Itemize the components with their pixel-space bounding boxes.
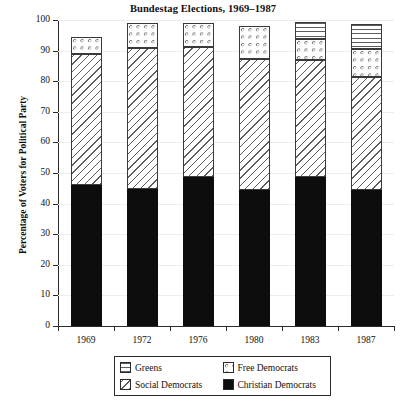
bar-segment-social-democrats bbox=[351, 77, 382, 190]
gridline bbox=[58, 204, 394, 205]
gridline bbox=[58, 173, 394, 174]
x-tick bbox=[226, 326, 227, 331]
bar-segment-social-democrats bbox=[127, 48, 158, 188]
x-tick bbox=[114, 326, 115, 331]
y-tick-label: 30 bbox=[41, 229, 51, 239]
bar-1972 bbox=[127, 20, 158, 326]
figure: Bundestag Elections, 1969–1987 Percentag… bbox=[0, 0, 406, 410]
bar-1969 bbox=[71, 20, 102, 326]
gridline bbox=[58, 112, 394, 113]
gridline bbox=[58, 142, 394, 143]
bar-segment-free-democrats bbox=[239, 26, 270, 58]
bar-segment-free-democrats bbox=[351, 49, 382, 77]
legend-swatch-horizontal-lines-icon bbox=[120, 362, 131, 373]
x-tick-label-1983: 1983 bbox=[301, 335, 320, 345]
bar-segment-free-democrats bbox=[71, 37, 102, 55]
plot-area: 0102030405060708090100 19691972197619801… bbox=[58, 20, 394, 326]
bar-1987 bbox=[351, 20, 382, 326]
gridline bbox=[58, 51, 394, 52]
y-tick-label: 20 bbox=[41, 260, 51, 270]
x-tick-label-1976: 1976 bbox=[189, 335, 208, 345]
y-tick-label: 50 bbox=[41, 168, 51, 178]
x-tick bbox=[170, 326, 171, 331]
bar-segment-christian-democrats bbox=[127, 189, 158, 326]
legend-item-christian-democrats[interactable]: Christian Democrats bbox=[223, 379, 326, 390]
y-tick-label: 40 bbox=[41, 199, 51, 209]
x-tick-label-1987: 1987 bbox=[357, 335, 376, 345]
bar-segment-social-democrats bbox=[71, 54, 102, 185]
legend-label: Social Democrats bbox=[135, 380, 202, 390]
y-tick bbox=[53, 295, 58, 296]
y-axis-label: Percentage of Voters for Political Party bbox=[18, 60, 28, 290]
x-tick-label-1980: 1980 bbox=[245, 335, 264, 345]
bar-segment-greens bbox=[351, 24, 382, 49]
legend-swatch-diagonal-hatch-icon bbox=[120, 379, 131, 390]
chart-title: Bundestag Elections, 1969–1987 bbox=[0, 3, 406, 14]
gridline bbox=[58, 20, 394, 21]
legend-swatch-solid-black-icon bbox=[223, 379, 234, 390]
bar-segment-social-democrats bbox=[239, 59, 270, 190]
legend-item-greens[interactable]: Greens bbox=[120, 362, 223, 373]
bar-segment-free-democrats bbox=[183, 23, 214, 47]
y-tick-label: 0 bbox=[45, 321, 50, 331]
y-tick bbox=[53, 204, 58, 205]
x-tick-label-1969: 1969 bbox=[77, 335, 96, 345]
y-tick bbox=[53, 112, 58, 113]
y-tick-label: 90 bbox=[41, 46, 51, 56]
bar-segment-christian-democrats bbox=[351, 190, 382, 326]
legend: GreensFree DemocratsSocial DemocratsChri… bbox=[114, 356, 331, 396]
y-tick bbox=[53, 20, 58, 21]
bar-segment-christian-democrats bbox=[295, 177, 326, 326]
x-tick bbox=[282, 326, 283, 331]
x-tick bbox=[338, 326, 339, 331]
bar-segment-greens bbox=[295, 22, 326, 39]
y-tick-label: 80 bbox=[41, 76, 51, 86]
y-tick bbox=[53, 234, 58, 235]
y-tick bbox=[53, 51, 58, 52]
y-tick-label: 10 bbox=[41, 291, 51, 301]
y-tick bbox=[53, 173, 58, 174]
legend-swatch-dots-icon bbox=[223, 362, 234, 373]
y-tick bbox=[53, 265, 58, 266]
bar-1980 bbox=[239, 20, 270, 326]
y-tick bbox=[53, 81, 58, 82]
x-tick bbox=[58, 326, 59, 331]
y-tick-label: 70 bbox=[41, 107, 51, 117]
x-tick bbox=[394, 326, 395, 331]
bar-segment-christian-democrats bbox=[183, 177, 214, 326]
bar-segment-social-democrats bbox=[183, 47, 214, 177]
y-tick bbox=[53, 142, 58, 143]
bar-1983 bbox=[295, 20, 326, 326]
y-tick-label: 60 bbox=[41, 138, 51, 148]
bar-1976 bbox=[183, 20, 214, 326]
legend-item-free-democrats[interactable]: Free Democrats bbox=[223, 362, 326, 373]
bar-segment-christian-democrats bbox=[71, 185, 102, 326]
legend-label: Free Democrats bbox=[238, 363, 298, 373]
y-tick-label: 100 bbox=[36, 15, 50, 25]
legend-label: Christian Democrats bbox=[238, 380, 316, 390]
gridline bbox=[58, 295, 394, 296]
legend-label: Greens bbox=[135, 363, 162, 373]
bar-segment-christian-democrats bbox=[239, 190, 270, 326]
gridline bbox=[58, 265, 394, 266]
gridline bbox=[58, 81, 394, 82]
legend-item-social-democrats[interactable]: Social Democrats bbox=[120, 379, 223, 390]
bar-segment-free-democrats bbox=[295, 39, 326, 60]
bar-segment-free-democrats bbox=[127, 23, 158, 49]
gridline bbox=[58, 234, 394, 235]
x-tick-label-1972: 1972 bbox=[133, 335, 152, 345]
bar-segment-social-democrats bbox=[295, 60, 326, 177]
